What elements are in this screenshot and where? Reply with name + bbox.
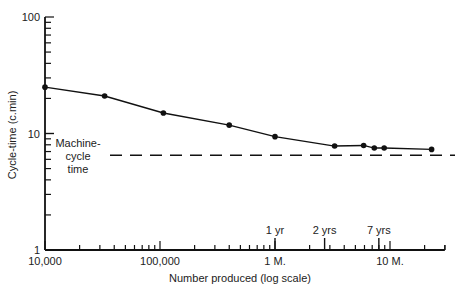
ref-label-3: time	[68, 163, 89, 175]
ref-label-2: cycle	[65, 150, 90, 162]
x-tick-label: 100,000	[140, 255, 180, 267]
data-point	[42, 84, 48, 90]
data-point	[102, 93, 108, 99]
x-axis-label: Number produced (log scale)	[169, 272, 311, 284]
year-mark-label: 2 yrs	[313, 224, 337, 236]
data-point	[381, 145, 387, 151]
year-mark-label: 1 yr	[266, 224, 285, 236]
x-tick-label: 1 M.	[264, 255, 285, 267]
ref-label-1: Machine-	[55, 137, 101, 149]
data-point	[429, 147, 435, 153]
y-axis-label: Cycle-time (c.min)	[6, 91, 18, 180]
chart: 11010010,000100,0001 M.10 M.1 yr2 yrs7 y…	[0, 0, 459, 291]
y-tick-label: 10	[28, 128, 40, 140]
x-tick-label: 10 M.	[376, 255, 404, 267]
data-point	[272, 134, 278, 140]
data-point	[161, 110, 167, 116]
plot-area	[42, 84, 455, 155]
year-mark-label: 7 yrs	[367, 224, 391, 236]
y-tick-label: 100	[22, 11, 40, 23]
x-tick-label: 10,000	[28, 255, 62, 267]
data-point	[226, 122, 232, 128]
data-point	[371, 145, 377, 151]
data-point	[361, 143, 367, 149]
data-point	[332, 143, 338, 149]
